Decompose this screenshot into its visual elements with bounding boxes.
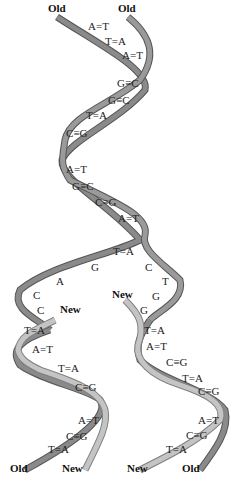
base-pair: T=A <box>86 110 107 121</box>
unpaired-base: T <box>162 276 169 287</box>
base-pair: A=T <box>78 415 99 426</box>
label-top-left-old: Old <box>48 2 66 14</box>
base-pair: T=A <box>105 36 126 47</box>
base-pair: A=T <box>32 344 53 355</box>
base-pair: A=T <box>118 213 139 224</box>
base-pair: C≡G <box>66 431 87 442</box>
base-pair: C≡G <box>95 197 116 208</box>
unpaired-base: C <box>33 290 40 301</box>
base-pair: A=T <box>88 21 109 32</box>
base-pair: T=A <box>48 444 69 455</box>
base-pair: A=T <box>198 415 219 426</box>
base-pair: T=A <box>24 325 45 336</box>
dna-replication-diagram: Old Old New New Old New New Old A=T T=A … <box>0 0 244 488</box>
label-fork-new-right: New <box>112 288 133 300</box>
base-pair: C≡G <box>166 357 187 368</box>
unpaired-base: C <box>37 305 44 316</box>
unpaired-base: G <box>152 291 160 302</box>
label-fork-new-left: New <box>60 303 81 315</box>
base-pair: T=A <box>58 363 79 374</box>
label-bottom-left-new: New <box>62 462 83 474</box>
label-bottom-left-old: Old <box>10 462 28 474</box>
base-pair: T=A <box>166 444 187 455</box>
base-pair: C≡G <box>198 386 219 397</box>
unpaired-base: C <box>145 262 152 273</box>
base-pair: T=A <box>182 373 203 384</box>
unpaired-base: A <box>56 276 64 287</box>
base-pair: C≡G <box>66 128 87 139</box>
base-pair: G≡C <box>108 95 129 106</box>
unpaired-base: G <box>91 262 99 273</box>
base-pair: C≡G <box>75 382 96 393</box>
base-pair: G≡C <box>72 181 93 192</box>
base-pair: A=T <box>122 50 143 61</box>
base-pair: A=T <box>66 164 87 175</box>
base-pair: A=T <box>146 341 167 352</box>
unpaired-base: G <box>140 305 148 316</box>
label-bottom-right-new: New <box>127 462 148 474</box>
base-pair: G≡C <box>117 78 138 89</box>
base-pair: T=A <box>113 246 134 257</box>
label-top-right-old: Old <box>118 2 136 14</box>
label-bottom-right-old: Old <box>182 462 200 474</box>
base-pair: T=A <box>144 325 165 336</box>
base-pair: C≡G <box>186 430 207 441</box>
